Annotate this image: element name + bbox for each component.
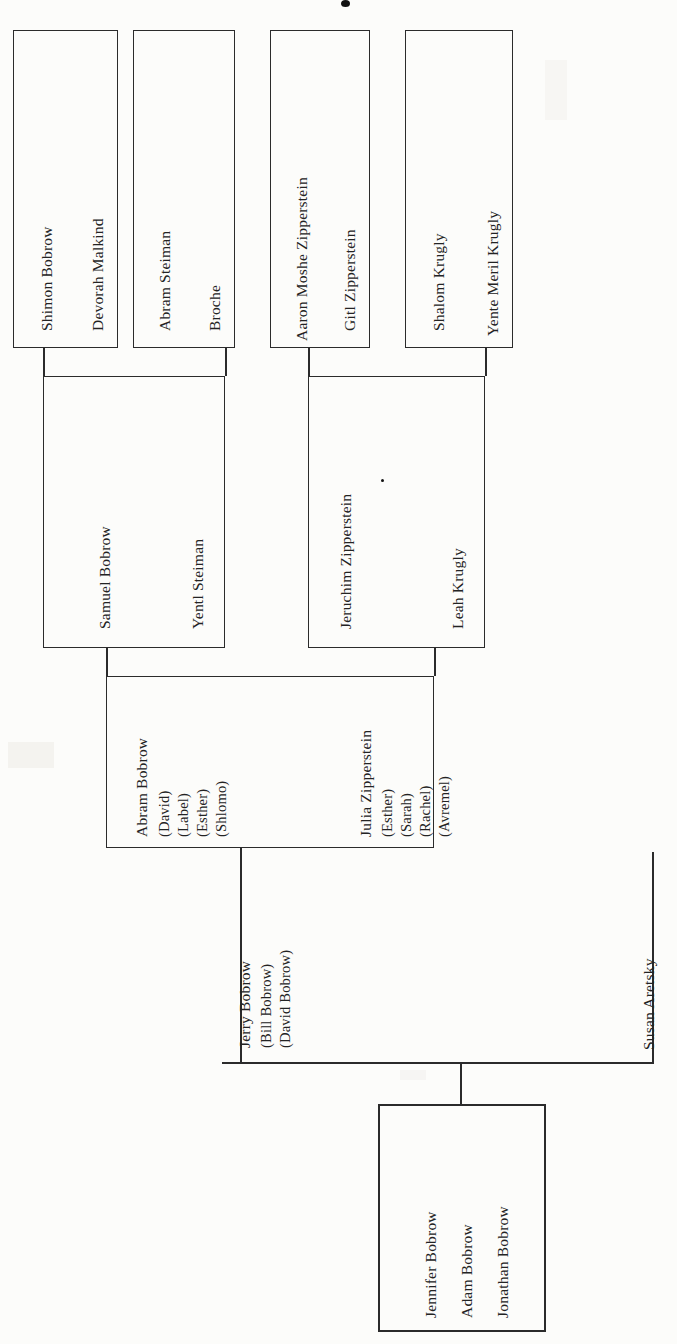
person-name-aaron-moshe-zipperstein: Aaron Moshe Zipperstein: [293, 177, 311, 341]
sibling-name-david-bobrow: (David Bobrow): [277, 950, 294, 1048]
person-name-abram-bobrow: Abram Bobrow: [133, 738, 151, 837]
person-name-julia-zipperstein: Julia Zipperstein: [357, 730, 375, 837]
person-name-susan-aretsky: Susan Aretsky: [640, 958, 658, 1050]
person-name-jeruchim-zipperstein: Jeruchim Zipperstein: [337, 494, 355, 629]
scan-smudge-right: [545, 60, 567, 120]
person-name-shimon-bobrow: Shimon Bobrow: [38, 226, 56, 331]
connector-steiman-down: [225, 348, 227, 376]
sibling-name-bill-bobrow: (Bill Bobrow): [258, 964, 275, 1048]
node-box-samuel-yentl[interactable]: Samuel Bobrow Yentl Steiman: [43, 376, 225, 648]
scan-smudge-left: [8, 742, 54, 768]
person-name-jerry-bobrow: Jerry Bobrow: [236, 961, 254, 1048]
person-name-shalom-krugly: Shalom Krugly: [430, 233, 448, 331]
person-name-abram-steiman: Abram Steiman: [156, 231, 174, 331]
scan-speck: [341, 0, 350, 7]
child-name-jonathan-bobrow: Jonathan Bobrow: [494, 1206, 512, 1318]
person-name-gitl-zipperstein: Gitl Zipperstein: [341, 229, 359, 331]
person-name-broche: Broche: [206, 285, 224, 331]
sibling-name-esther-z: (Esther): [379, 789, 396, 837]
person-name-leah-krugly: Leah Krugly: [449, 548, 467, 629]
node-box-jeruchim-leah[interactable]: Jeruchim Zipperstein Leah Krugly: [308, 376, 485, 648]
child-name-jennifer-bobrow: Jennifer Bobrow: [422, 1211, 440, 1318]
connector-children-down: [460, 1062, 462, 1104]
connector-jeruchim-down: [434, 648, 436, 676]
person-name-yentl-steiman: Yentl Steiman: [189, 539, 207, 629]
sibling-name-shlomo: (Shlomo): [213, 781, 230, 837]
sibling-name-sarah: (Sarah): [398, 793, 415, 837]
person-name-samuel-bobrow: Samuel Bobrow: [96, 526, 114, 629]
node-box-krugly-yente[interactable]: Shalom Krugly Yente Meril Krugly: [405, 30, 513, 348]
node-box-bobrow-malkind[interactable]: Shimon Bobrow Devorah Malkind: [13, 30, 118, 348]
connector-samuel-down: [106, 648, 108, 676]
node-box-abram-julia[interactable]: Abram Bobrow (David) (Label) (Esther) (S…: [106, 676, 434, 848]
connector-zipperstein-down: [308, 348, 310, 376]
family-tree-chart: Shimon Bobrow Devorah Malkind Abram Stei…: [0, 0, 677, 1344]
node-box-steiman-broche[interactable]: Abram Steiman Broche: [133, 30, 235, 348]
scan-smudge-mid: [400, 1070, 426, 1080]
marriage-bar-jerry-susan: [222, 1062, 654, 1064]
ink-dot-gen2: [381, 479, 384, 482]
node-box-children[interactable]: Jennifer Bobrow Adam Bobrow Jonathan Bob…: [378, 1104, 546, 1332]
connector-bobrow-down: [43, 348, 45, 376]
person-name-yente-meril-krugly: Yente Meril Krugly: [484, 211, 502, 336]
child-name-adam-bobrow: Adam Bobrow: [458, 1224, 476, 1318]
sibling-name-rachel: (Rachel): [417, 785, 434, 837]
node-box-zipperstein-gitl[interactable]: Aaron Moshe Zipperstein Gitl Zipperstein: [270, 30, 370, 348]
person-name-devorah-malkind: Devorah Malkind: [89, 218, 107, 331]
sibling-name-esther-b: (Esther): [194, 789, 211, 837]
connector-krugly-down: [485, 348, 487, 376]
sibling-name-avremel: (Avremel): [436, 776, 453, 837]
node-group-jerry-bobrow[interactable]: Jerry Bobrow (Bill Bobrow) (David Bobrow…: [222, 848, 282, 1062]
sibling-name-label: (Label): [175, 793, 192, 837]
sibling-name-david: (David): [156, 791, 173, 838]
